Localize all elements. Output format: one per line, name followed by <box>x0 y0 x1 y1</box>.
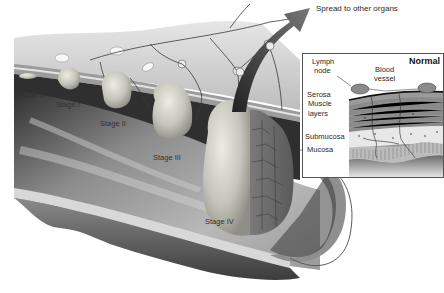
label-serosa: Serosa <box>307 91 331 99</box>
label-blood-vessel-line2: vessel <box>374 75 395 83</box>
label-submucosa: Submucosa <box>305 133 345 141</box>
label-stage-3: Stage III <box>153 154 181 162</box>
label-blood-vessel-line1: Blood <box>375 66 394 74</box>
inset-title: Normal <box>409 56 440 66</box>
label-layers: layers <box>308 110 328 118</box>
label-stage-4: Stage IV <box>205 218 234 226</box>
label-stage-0: Stage 0 <box>18 91 44 99</box>
label-lymph-node-line1: Lymph <box>312 58 334 66</box>
label-lymph-node-line2: node <box>314 67 331 75</box>
label-spread-to-other-organs: Spread to other organs <box>316 5 398 13</box>
label-mucosa: Mucosa <box>307 146 333 154</box>
label-stage-2: Stage II <box>100 120 126 128</box>
label-muscle: Muscle <box>308 100 332 108</box>
label-stage-1: Stage I <box>56 101 80 109</box>
